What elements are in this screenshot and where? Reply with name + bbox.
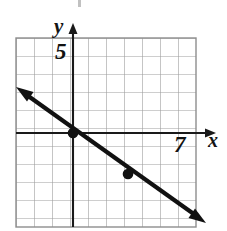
y-axis-label: y [54, 16, 63, 37]
x-axis-tick-label: 7 [174, 133, 186, 156]
graph-figure: y x 5 7 [0, 0, 227, 231]
y-axis-tick-label: 5 [55, 40, 67, 63]
origin-point [68, 128, 79, 139]
second-point [123, 169, 134, 180]
x-axis-label: x [208, 130, 218, 150]
coordinate-plane [0, 0, 227, 231]
